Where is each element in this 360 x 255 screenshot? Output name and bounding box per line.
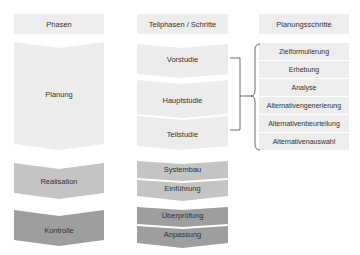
curly-brace — [251, 44, 260, 150]
bracket-connector — [230, 58, 240, 130]
connector-lines — [0, 0, 360, 255]
